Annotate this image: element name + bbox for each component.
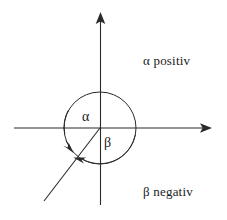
alpha-arc-path (64, 110, 68, 134)
beta-negative-annotation: β negativ (143, 185, 193, 198)
beta-angle-label: β (104, 136, 111, 150)
alpha-positive-annotation: α positiv (143, 54, 190, 67)
angle-diagram-figure: α β α positiv β negativ (0, 0, 227, 220)
terminal-ray-line (44, 128, 100, 201)
alpha-angle-label: α (82, 110, 89, 124)
